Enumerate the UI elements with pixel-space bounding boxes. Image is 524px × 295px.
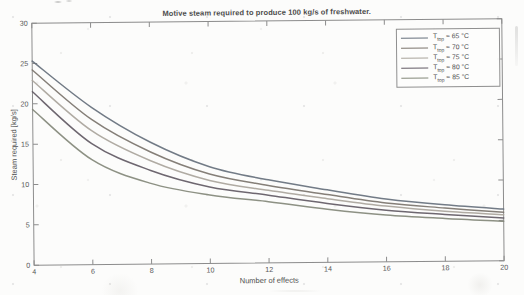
x-tick-label: 6 [91, 267, 95, 276]
x-tick-label: 8 [150, 266, 154, 275]
legend-label: Ttop = 80 °C [433, 63, 469, 73]
legend-line-sample [401, 78, 428, 79]
legend-line-sample [401, 68, 428, 69]
matlab-figure: Motive steam required to produce 100 kg/… [0, 0, 524, 295]
legend-line-sample [401, 37, 428, 38]
x-tick-label: 16 [383, 264, 391, 273]
x-tick-label: 4 [32, 267, 36, 276]
series-line [32, 76, 503, 219]
y-tick-label: 20 [21, 99, 29, 108]
legend-label: Ttop = 75 °C [433, 53, 469, 63]
y-tick-label: 15 [21, 140, 29, 149]
legend-line-sample [401, 57, 428, 58]
series-line [32, 65, 503, 216]
scanned-chart-page: Motive steam required to produce 100 kg/… [0, 0, 524, 295]
legend-label: Ttop = 85 °C [433, 73, 469, 83]
legend-line-sample [401, 47, 428, 48]
y-tick-label: 0 [26, 261, 30, 270]
x-tick-label: 20 [500, 263, 508, 272]
y-tick-label: 5 [26, 220, 30, 229]
y-tick-label: 25 [20, 59, 28, 68]
y-tick-label: 30 [20, 19, 28, 28]
x-tick-label: 10 [206, 265, 214, 274]
x-tick-label: 18 [441, 263, 449, 272]
x-tick-label: 12 [265, 265, 273, 274]
legend-item: Ttop = 85 °C [401, 73, 495, 84]
legend: Ttop = 65 °CTtop = 70 °CTtop = 75 °CTtop… [396, 28, 501, 88]
y-tick-label: 10 [21, 180, 29, 189]
legend-label: Ttop = 70 °C [433, 43, 469, 53]
legend-label: Ttop = 65 °C [433, 32, 469, 42]
x-tick-label: 14 [324, 264, 332, 273]
